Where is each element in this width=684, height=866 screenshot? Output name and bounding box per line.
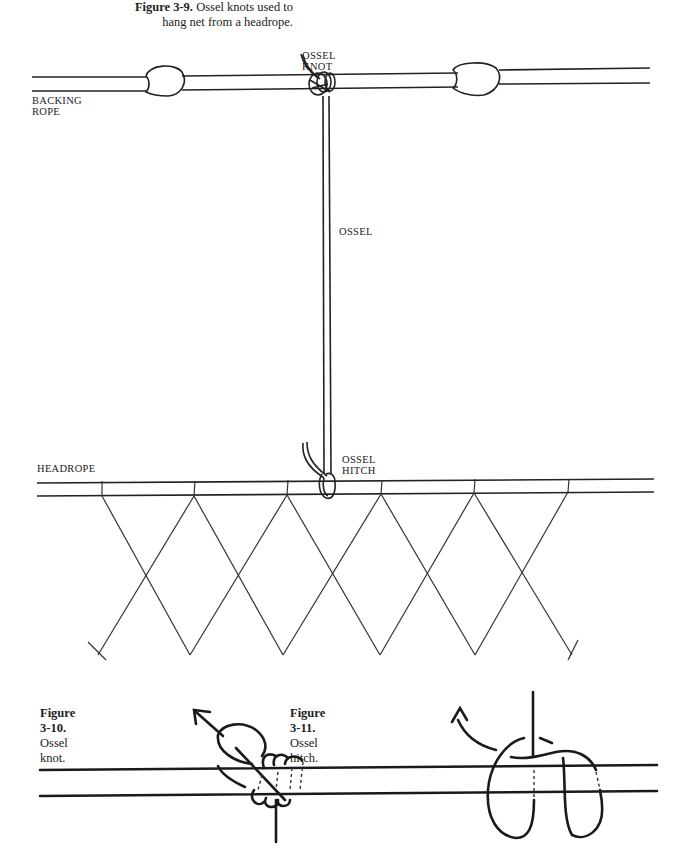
ossel-knot-detail xyxy=(194,710,303,842)
figures-3-10-3-11-drawing xyxy=(0,0,684,866)
